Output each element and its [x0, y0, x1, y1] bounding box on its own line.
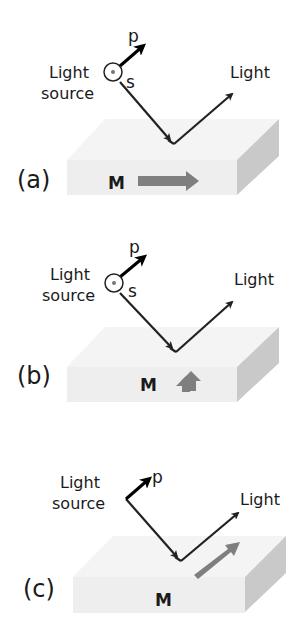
panel-c: p Light source Light (c) M — [23, 467, 286, 613]
reflected-light-label: Light — [234, 270, 274, 289]
magnetization-label: M — [108, 173, 125, 193]
light-source-label-line2: source — [52, 494, 105, 513]
panel-label-a: (a) — [17, 166, 50, 194]
magnetization-label: M — [140, 375, 157, 395]
panel-label-b: (b) — [17, 362, 51, 390]
magnetization-label: M — [155, 590, 172, 610]
light-source-label-line1: Light — [50, 265, 90, 284]
sample-slab — [67, 327, 279, 402]
light-source-label-line2: source — [42, 286, 95, 305]
p-label: p — [128, 26, 139, 46]
light-source-label-line2: source — [41, 84, 94, 103]
panel-label-c: (c) — [23, 575, 55, 603]
reflected-light-label: Light — [230, 63, 270, 82]
light-source-label-line1: Light — [49, 63, 89, 82]
s-label: s — [126, 72, 135, 92]
panel-a: p s Light source Light (a) M — [17, 26, 279, 195]
s-polarization-dot-icon — [105, 274, 123, 292]
p-polarization-arrow — [120, 46, 143, 66]
reflected-light-label: Light — [240, 490, 280, 509]
p-label: p — [129, 237, 140, 257]
s-label: s — [128, 281, 137, 301]
sample-slab — [73, 536, 286, 613]
panel-b: p s Light source Light (b) M — [17, 237, 279, 402]
p-label: p — [152, 467, 163, 487]
moke-geometry-diagram: p s Light source Light (a) M p s Light s… — [0, 0, 303, 635]
p-polarization-arrow — [126, 479, 149, 499]
s-polarization-dot-icon — [104, 63, 122, 81]
p-polarization-arrow — [120, 257, 144, 277]
light-source-label-line1: Light — [60, 473, 100, 492]
